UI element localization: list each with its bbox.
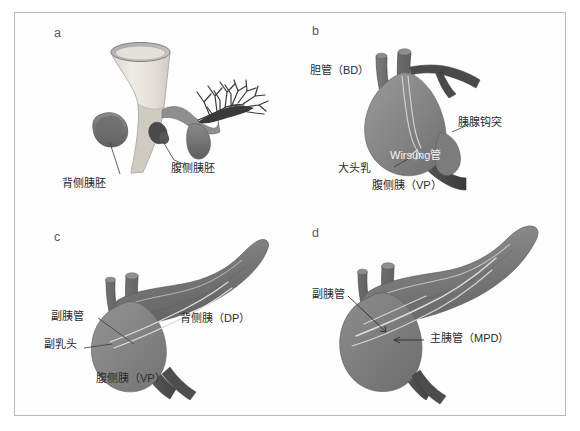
label-ventral-pancreas-c: 腹侧胰（VP） [96,372,166,384]
label-wirsung-duct: Wirsung管 [390,146,441,162]
panel-a: a [14,12,290,214]
panel-c: c [14,214,290,416]
label-accessory-pancreatic-duct-d: 副胰管 [312,288,345,300]
label-major-papilla: 大头乳 [338,162,371,174]
label-ventral-pancreas-b: 腹侧胰（VP） [372,179,442,191]
label-dorsal-pancreatic-bud: 背侧胰胚 [62,177,106,189]
label-dorsal-pancreas: 背侧胰（DP） [180,312,250,324]
panel-d-illustration [290,214,566,416]
label-ventral-pancreatic-bud: 腹侧胰胚 [171,162,215,174]
label-accessory-pancreatic-duct-c: 副胰管 [51,310,84,322]
figure-root: a [0,0,580,431]
label-uncinate-process: 胰腺钩突 [458,116,502,128]
panel-b: b [290,12,566,214]
label-main-pancreatic-duct: 主胰管（MPD） [430,332,509,344]
panel-d: d [290,214,566,416]
panel-a-illustration [14,12,290,214]
label-minor-papilla: 副乳头 [44,338,77,350]
label-bile-duct: 胆管（BD） [310,64,369,76]
